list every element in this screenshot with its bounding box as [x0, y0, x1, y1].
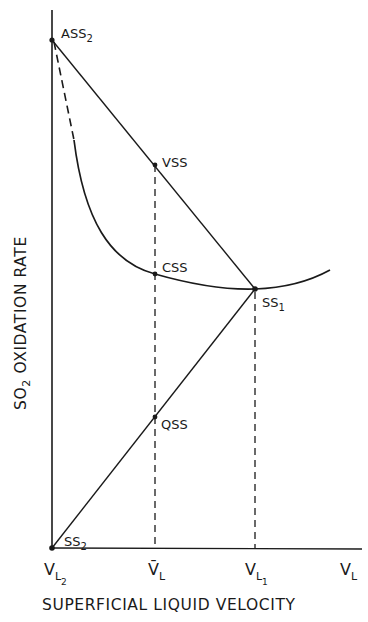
tick-vl-bar: V̄L	[148, 560, 166, 583]
tick-vl1: VL1	[245, 560, 268, 587]
label-ss2: SS2	[64, 534, 87, 552]
point-qss	[153, 415, 158, 420]
oxidation-rate-diagram: ASS2 VSS CSS SS1 QSS SS2 VL2 V̄L VL1 VL …	[0, 0, 368, 622]
point-ss1	[252, 286, 258, 292]
point-ss2	[49, 545, 55, 551]
label-qss: QSS	[161, 417, 188, 432]
point-vss	[153, 163, 158, 168]
tick-vl: VL	[340, 560, 358, 583]
y-axis-title: SO2 OXIDATION RATE	[12, 236, 33, 410]
point-ass2	[49, 37, 54, 42]
point-css	[153, 272, 158, 277]
x-axis-title: SUPERFICIAL LIQUID VELOCITY	[42, 596, 296, 614]
tick-vl2: VL2	[44, 560, 67, 587]
label-ss1: SS1	[262, 295, 285, 313]
x-axis	[52, 548, 362, 549]
curve-dashed-segment	[54, 42, 74, 140]
label-vss: VSS	[162, 155, 187, 170]
label-css: CSS	[162, 260, 188, 275]
label-ass2: ASS2	[61, 26, 93, 44]
oxidation-curve	[74, 140, 330, 289]
